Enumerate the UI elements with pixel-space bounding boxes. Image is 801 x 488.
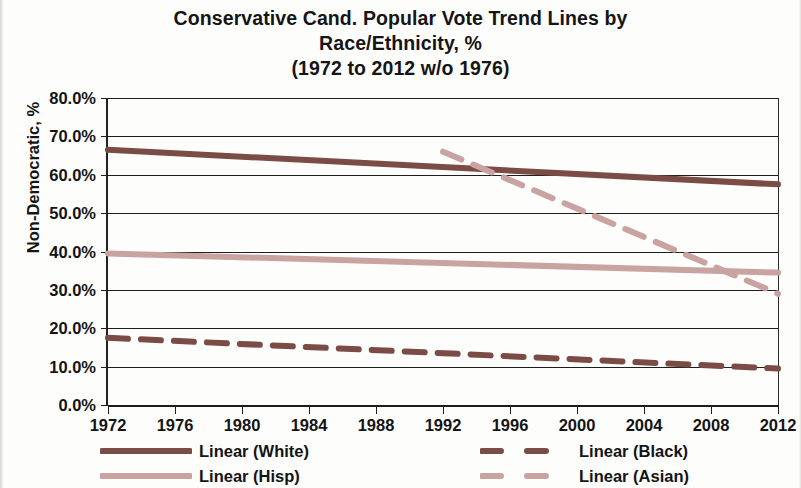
y-axis-tick-label: 0.0% — [58, 396, 96, 415]
x-axis-tick — [644, 405, 645, 414]
x-axis-tick-label: 1976 — [157, 416, 194, 435]
legend-item-hisp: Linear (Hisp) — [100, 465, 300, 487]
x-axis-tick-label: 1980 — [224, 416, 261, 435]
y-axis-tick-label: 70.0% — [49, 127, 96, 146]
legend-label-black: Linear (Black) — [579, 442, 688, 461]
x-axis-tick — [443, 405, 444, 414]
x-axis-tick — [711, 405, 712, 414]
y-axis-tick-label: 50.0% — [49, 204, 96, 223]
plot-area: 0.0%10.0%20.0%30.0%40.0%50.0%60.0%70.0%8… — [106, 98, 779, 405]
x-axis-tick-label: 2008 — [693, 416, 730, 435]
x-axis-tick-label: 1996 — [492, 416, 529, 435]
x-axis-tick-label: 1984 — [291, 416, 328, 435]
x-axis-tick — [309, 405, 310, 414]
x-axis-tick-label: 1992 — [425, 416, 462, 435]
legend-label-asian: Linear (Asian) — [579, 467, 689, 486]
x-axis-tick — [510, 405, 511, 414]
legend-swatch-white — [100, 440, 192, 462]
legend-swatch-black — [480, 440, 572, 462]
trend-line-linear-black — [108, 338, 778, 369]
legend-label-hisp: Linear (Hisp) — [199, 467, 300, 486]
x-axis-tick-label: 2012 — [760, 416, 797, 435]
chart-image: Conservative Cand. Popular Vote Trend Li… — [0, 0, 801, 488]
y-axis-tick-label: 40.0% — [49, 242, 96, 261]
x-axis-tick — [577, 405, 578, 414]
y-axis-tick-label: 20.0% — [49, 319, 96, 338]
chart-title-line-2: Race/Ethnicity, % — [0, 31, 801, 56]
chart-legend: Linear (White) Linear (Hisp) Linear (Bla… — [100, 440, 760, 488]
legend-item-white: Linear (White) — [100, 440, 309, 462]
legend-label-white: Linear (White) — [199, 442, 309, 461]
legend-item-black: Linear (Black) — [480, 440, 688, 462]
x-axis-tick — [242, 405, 243, 414]
series-lines — [108, 98, 778, 405]
x-axis-tick — [778, 405, 779, 414]
x-axis-tick-label: 1972 — [90, 416, 127, 435]
trend-line-linear-white — [108, 150, 778, 185]
y-axis-tick-label: 10.0% — [49, 357, 96, 376]
y-axis-tick-label: 80.0% — [49, 89, 96, 108]
x-axis-tick-label: 1988 — [358, 416, 395, 435]
legend-item-asian: Linear (Asian) — [480, 465, 689, 487]
x-axis-tick-label: 2000 — [559, 416, 596, 435]
legend-swatch-hisp — [100, 465, 192, 487]
chart-title-line-3: (1972 to 2012 w/o 1976) — [0, 56, 801, 81]
trend-line-linear-hisp — [108, 253, 778, 272]
x-axis-tick — [376, 405, 377, 414]
y-axis-title: Non-Democratic, % — [24, 83, 43, 273]
legend-swatch-asian — [480, 465, 572, 487]
x-axis-tick — [108, 405, 109, 414]
y-axis-tick-label: 60.0% — [49, 165, 96, 184]
chart-title: Conservative Cand. Popular Vote Trend Li… — [0, 6, 801, 81]
y-axis-tick-label: 30.0% — [49, 280, 96, 299]
x-axis-tick-label: 2004 — [626, 416, 663, 435]
x-axis-tick — [175, 405, 176, 414]
chart-title-line-1: Conservative Cand. Popular Vote Trend Li… — [0, 6, 801, 31]
